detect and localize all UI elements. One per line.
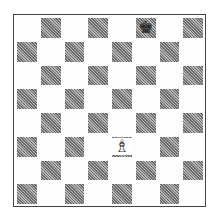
square-c8[interactable] [63,16,87,40]
square-c4[interactable] [63,111,87,135]
square-b7[interactable] [39,40,63,64]
square-c7[interactable] [63,40,87,64]
square-a7[interactable] [15,40,39,64]
square-g5[interactable] [158,87,182,111]
square-f2[interactable] [134,159,158,183]
square-g7[interactable] [158,40,182,64]
square-a2[interactable] [15,159,39,183]
square-f3[interactable] [134,135,158,159]
square-h2[interactable] [181,159,205,183]
white-bishop-icon[interactable]: ♗ [110,135,134,159]
square-d3[interactable] [86,135,110,159]
square-b1[interactable] [39,182,63,206]
square-g4[interactable] [158,111,182,135]
square-a8[interactable] [15,16,39,40]
square-h5[interactable] [181,87,205,111]
square-b6[interactable] [39,64,63,88]
square-e4[interactable] [110,111,134,135]
square-f6[interactable] [134,64,158,88]
board-grid: ♚♗ [15,16,205,206]
square-b5[interactable] [39,87,63,111]
square-f1[interactable] [134,182,158,206]
square-c5[interactable] [63,87,87,111]
square-b4[interactable] [39,111,63,135]
square-g3[interactable] [158,135,182,159]
square-e3[interactable]: ♗ [110,135,134,159]
black-king-icon[interactable]: ♚ [134,16,158,40]
square-c6[interactable] [63,64,87,88]
square-d8[interactable] [86,16,110,40]
square-h8[interactable] [181,16,205,40]
square-h3[interactable] [181,135,205,159]
square-e6[interactable] [110,64,134,88]
square-c1[interactable] [63,182,87,206]
square-d2[interactable] [86,159,110,183]
square-f5[interactable] [134,87,158,111]
chess-board: ♚♗ [13,14,206,207]
square-b3[interactable] [39,135,63,159]
square-f4[interactable] [134,111,158,135]
square-h6[interactable] [181,64,205,88]
square-h1[interactable] [181,182,205,206]
square-g2[interactable] [158,159,182,183]
square-c3[interactable] [63,135,87,159]
square-f7[interactable] [134,40,158,64]
square-e5[interactable] [110,87,134,111]
square-b2[interactable] [39,159,63,183]
square-b8[interactable] [39,16,63,40]
square-e8[interactable] [110,16,134,40]
square-h4[interactable] [181,111,205,135]
square-e1[interactable] [110,182,134,206]
square-a5[interactable] [15,87,39,111]
square-a3[interactable] [15,135,39,159]
square-g6[interactable] [158,64,182,88]
square-g1[interactable] [158,182,182,206]
square-f8[interactable]: ♚ [134,16,158,40]
square-e7[interactable] [110,40,134,64]
piece-glyph: ♗ [112,138,131,155]
square-d4[interactable] [86,111,110,135]
square-c2[interactable] [63,159,87,183]
square-h7[interactable] [181,40,205,64]
square-d6[interactable] [86,64,110,88]
piece-glyph: ♚ [138,19,153,36]
square-d7[interactable] [86,40,110,64]
square-d1[interactable] [86,182,110,206]
square-a1[interactable] [15,182,39,206]
square-a4[interactable] [15,111,39,135]
square-g8[interactable] [158,16,182,40]
square-a6[interactable] [15,64,39,88]
square-d5[interactable] [86,87,110,111]
square-e2[interactable] [110,159,134,183]
